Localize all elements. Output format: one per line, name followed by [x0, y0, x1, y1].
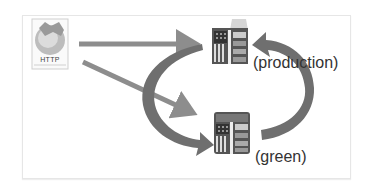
curved-arrow-green-to-production [252, 32, 314, 140]
curved-arrow-production-to-green [142, 44, 214, 156]
server-production [210, 18, 250, 66]
http-label: HTTP [31, 56, 69, 63]
arrow-http-to-green [83, 62, 193, 113]
green-label: (green) [255, 148, 307, 166]
server-icon [212, 108, 252, 156]
production-label: (production) [253, 54, 338, 72]
server-icon [210, 18, 250, 66]
server-green [212, 108, 252, 156]
